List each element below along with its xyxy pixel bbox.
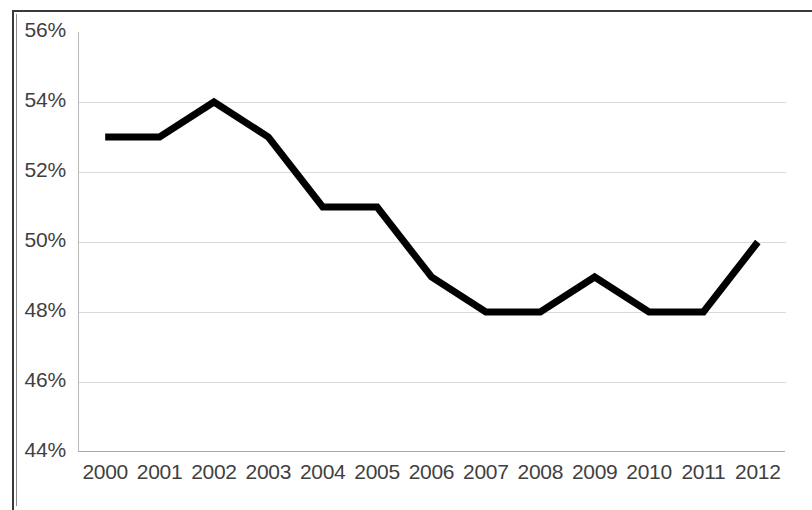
x-axis-tick-label: 2003 <box>246 460 292 484</box>
gridline <box>79 242 786 243</box>
x-axis-tick-label: 2008 <box>518 460 564 484</box>
x-axis-tick-label: 2009 <box>572 460 618 484</box>
x-axis-tick-label: 2012 <box>735 460 781 484</box>
y-axis-tick-label: 48% <box>25 298 66 322</box>
plot-area <box>78 32 785 452</box>
x-axis-tick-label: 2002 <box>191 460 237 484</box>
x-axis-tick-label: 2000 <box>82 460 128 484</box>
y-axis-tick-label: 50% <box>25 228 66 252</box>
x-axis-tick-label: 2005 <box>354 460 400 484</box>
y-axis: 56%54%52%50%48%46%44% <box>0 0 66 503</box>
x-axis-tick-label: 2001 <box>137 460 183 484</box>
y-axis-tick-label: 54% <box>25 88 66 112</box>
gridline <box>79 172 786 173</box>
y-axis-tick-label: 44% <box>25 438 66 462</box>
gridline <box>79 312 786 313</box>
gridline <box>79 382 786 383</box>
x-axis-tick-label: 2011 <box>681 460 725 484</box>
y-axis-tick-label: 56% <box>25 18 66 42</box>
y-axis-tick-label: 52% <box>25 158 66 182</box>
y-axis-tick-label: 46% <box>25 368 66 392</box>
gridline <box>79 102 786 103</box>
x-axis-tick-label: 2010 <box>626 460 672 484</box>
x-axis-tick-label: 2007 <box>463 460 509 484</box>
x-axis-tick-label: 2006 <box>409 460 455 484</box>
x-axis-tick-label: 2004 <box>300 460 346 484</box>
